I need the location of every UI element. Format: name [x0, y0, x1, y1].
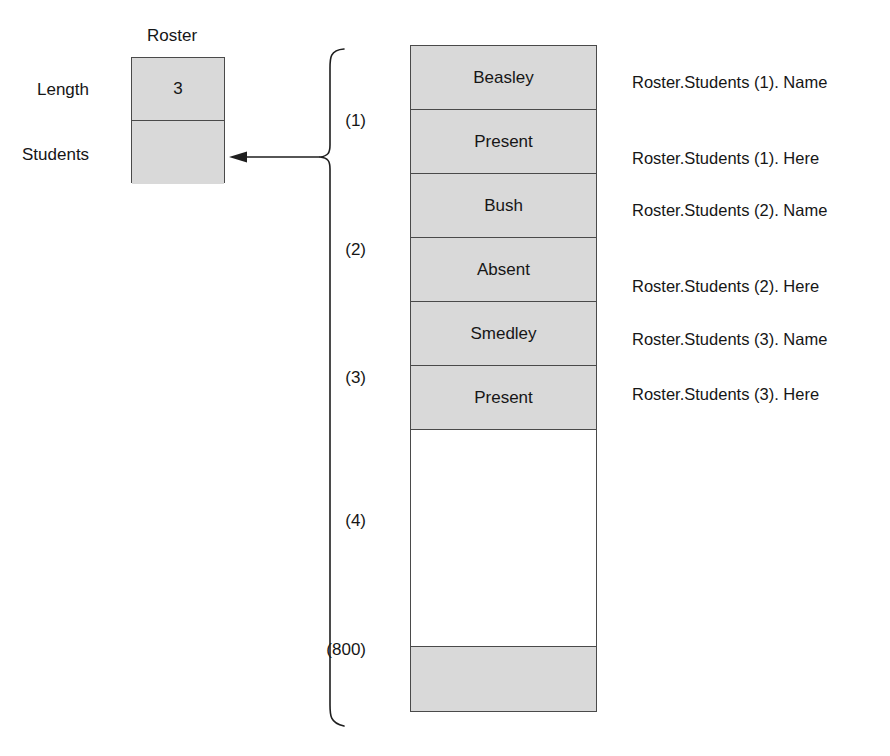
- array-index-label-3: (3): [318, 368, 366, 388]
- students-array-table: Beasley Present Bush Absent Smedley Pres…: [410, 45, 597, 712]
- path-label-1-name: Roster.Students (1). Name: [632, 73, 827, 92]
- record-cell-length: 3: [132, 58, 224, 121]
- record-box: 3: [131, 57, 225, 183]
- path-label-2-here: Roster.Students (2). Here: [632, 277, 819, 296]
- arrow-head-icon: [229, 152, 247, 163]
- array-index-label-1: (1): [318, 111, 366, 131]
- array-cell-2-name: Bush: [411, 174, 596, 238]
- path-label-3-here: Roster.Students (3). Here: [632, 385, 819, 404]
- roster-array-diagram: Roster Length Students 3 (1) (2) (3) (4)…: [0, 0, 890, 756]
- array-cell-3-here: Present: [411, 366, 596, 430]
- array-cell-1-here: Present: [411, 110, 596, 174]
- record-field-label-students: Students: [22, 146, 89, 163]
- path-label-3-name: Roster.Students (3). Name: [632, 330, 827, 349]
- array-index-label-4: (4): [318, 511, 366, 531]
- record-field-label-length: Length: [37, 81, 89, 98]
- array-cell-1-name: Beasley: [411, 46, 596, 110]
- record-title: Roster: [147, 27, 197, 44]
- array-cell-800: [411, 647, 596, 711]
- record-cell-students: [132, 121, 224, 184]
- record-cell-length-value: 3: [173, 79, 182, 99]
- array-index-label-2: (2): [318, 240, 366, 260]
- array-index-label-800: (800): [300, 640, 366, 660]
- path-label-1-here: Roster.Students (1). Here: [632, 149, 819, 168]
- array-cell-unused-region: [411, 430, 596, 647]
- array-cell-3-name: Smedley: [411, 302, 596, 366]
- array-cell-2-here: Absent: [411, 238, 596, 302]
- path-label-2-name: Roster.Students (2). Name: [632, 201, 827, 220]
